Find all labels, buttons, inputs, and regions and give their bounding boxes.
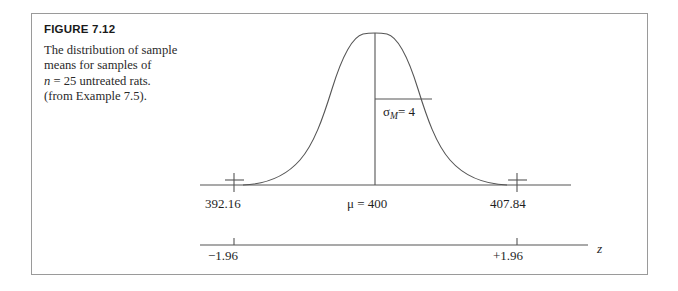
- normal-distribution-plot: [0, 0, 678, 291]
- z-axis-label-negative: −1.96: [208, 248, 238, 264]
- x-axis-label-mean: μ = 400: [347, 196, 387, 212]
- sigma-annotation-label: σM= 4: [383, 104, 415, 120]
- sigma-subscript: M: [390, 111, 398, 121]
- x-axis-label-left: 392.16: [205, 196, 241, 212]
- z-axis-title: z: [597, 241, 602, 257]
- sigma-value: = 4: [398, 104, 415, 119]
- x-axis-label-right: 407.84: [490, 196, 526, 212]
- figure-container: FIGURE 7.12 The distribution of sample m…: [0, 0, 678, 291]
- sigma-symbol: σ: [383, 104, 390, 119]
- z-axis-label-positive: +1.96: [493, 248, 523, 264]
